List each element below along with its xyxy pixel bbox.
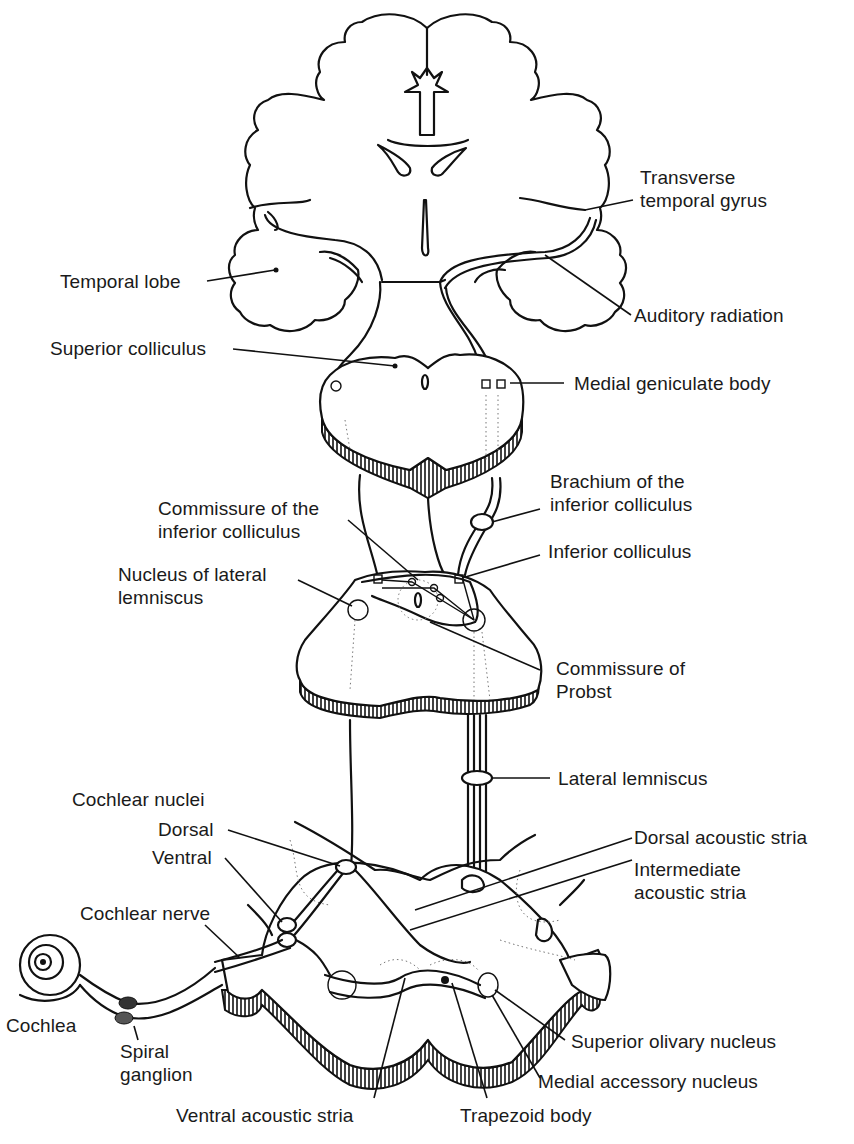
cerebrum-section — [229, 14, 626, 331]
label-cochlear-nerve: Cochlear nerve — [80, 902, 210, 925]
label-trapezoid-body: Trapezoid body — [460, 1104, 592, 1127]
midbrain-lower-section — [297, 571, 542, 718]
label-cochlea: Cochlea — [6, 1014, 76, 1037]
label-temporal-lobe: Temporal lobe — [60, 270, 181, 293]
cochlea-drawing — [20, 935, 222, 1024]
label-ventral: Ventral — [152, 846, 212, 869]
label-lateral-lemniscus: Lateral lemniscus — [558, 767, 708, 790]
label-auditory-radiation: Auditory radiation — [634, 304, 784, 327]
medulla-section — [222, 822, 610, 1089]
label-dorsal: Dorsal — [158, 818, 214, 841]
label-commissure-of-probst: Commissure of Probst — [556, 657, 685, 703]
label-superior-olivary-nucleus: Superior olivary nucleus — [571, 1030, 776, 1053]
midbrain-upper-section — [320, 354, 523, 498]
label-intermediate-acoustic-stria: Intermediate acoustic stria — [634, 858, 746, 904]
label-medial-geniculate-body: Medial geniculate body — [574, 372, 771, 395]
label-superior-colliculus: Superior colliculus — [50, 337, 206, 360]
label-medial-accessory-nucleus: Medial accessory nucleus — [538, 1070, 758, 1093]
label-ventral-acoustic-stria: Ventral acoustic stria — [176, 1104, 354, 1127]
label-commissure-inferior-colliculus: Commissure of the inferior colliculus — [158, 497, 319, 543]
label-cochlear-nuclei: Cochlear nuclei — [72, 788, 204, 811]
label-transverse-temporal-gyrus: Transverse temporal gyrus — [640, 166, 767, 212]
label-brachium-inferior-colliculus: Brachium of the inferior colliculus — [550, 470, 692, 516]
label-spiral-ganglion: Spiral ganglion — [120, 1040, 193, 1086]
label-dorsal-acoustic-stria: Dorsal acoustic stria — [634, 826, 807, 849]
label-nucleus-lateral-lemniscus: Nucleus of lateral lemniscus — [118, 563, 267, 609]
label-inferior-colliculus: Inferior colliculus — [548, 540, 691, 563]
